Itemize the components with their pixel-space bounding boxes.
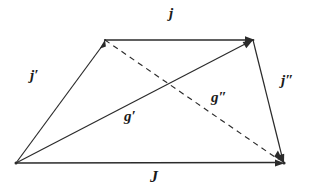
label-diagonal-g-double-prime: g″ xyxy=(211,90,227,105)
vertex-top-right xyxy=(252,39,254,41)
label-diagonal-g-prime: g′ xyxy=(124,109,136,124)
figure-canvas: j j′ j″ g′ g″ J xyxy=(0,0,310,191)
line-j-prime xyxy=(16,45,103,164)
vertex-bottom-left xyxy=(15,162,18,165)
line-J xyxy=(16,162,279,163)
arrowhead-g-prime xyxy=(243,40,253,48)
line-j-double-prime xyxy=(253,40,283,159)
vertex-bottom-right xyxy=(282,161,285,164)
vertex-top-left xyxy=(104,39,106,41)
label-left-edge-j-prime: j′ xyxy=(30,68,38,83)
label-right-edge-j-double-prime: j″ xyxy=(281,73,293,88)
segment-top-edge-vector-j xyxy=(105,36,255,44)
line-g-double-prime xyxy=(105,40,279,160)
label-top-edge-j: j xyxy=(169,6,173,21)
segment-bottom-edge-vector-J xyxy=(16,159,285,166)
vector-diagram xyxy=(0,0,310,191)
label-bottom-edge-J: J xyxy=(150,169,158,185)
segment-left-edge-vector-j-prime xyxy=(16,40,106,164)
